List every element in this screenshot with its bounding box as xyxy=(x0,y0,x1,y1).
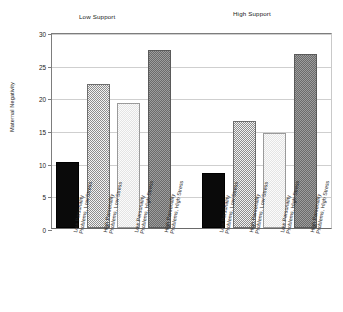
y-tick-label: 30 xyxy=(39,31,46,38)
y-tick-label: 5 xyxy=(42,194,46,201)
panel-title-low-support: Low Support xyxy=(79,13,115,20)
y-tick-mark xyxy=(48,132,52,133)
y-tick-mark xyxy=(48,197,52,198)
bar xyxy=(294,54,317,228)
bar-chart-figure: Low Support High Support Maternal Negati… xyxy=(0,0,343,312)
panel-title-high-support: High Support xyxy=(233,10,271,17)
gridline xyxy=(52,34,331,35)
y-tick-label: 25 xyxy=(39,63,46,70)
y-tick-mark xyxy=(48,67,52,68)
y-tick-label: 0 xyxy=(42,227,46,234)
y-tick-mark xyxy=(48,230,52,231)
y-tick-mark xyxy=(48,34,52,35)
y-tick-mark xyxy=(48,165,52,166)
gridline xyxy=(52,67,331,68)
y-tick-label: 10 xyxy=(39,161,46,168)
y-tick-mark xyxy=(48,99,52,100)
y-axis-label: Maternal Negativity xyxy=(9,71,15,143)
y-tick-label: 15 xyxy=(39,129,46,136)
y-tick-label: 20 xyxy=(39,96,46,103)
